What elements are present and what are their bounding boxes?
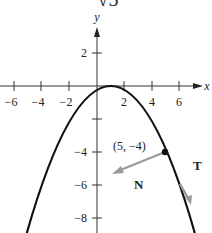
x-axis-label: x [203,79,210,93]
x-tick-label: 2 [121,95,127,109]
x-tick-label: −6 [5,95,18,109]
normal-vector: N [112,152,165,192]
x-tick-label: −2 [60,95,73,109]
header-partial-text: √5 [98,0,119,10]
point-marker [162,149,168,155]
point-label: (5, −4) [113,139,146,153]
y-axis: y 2 −4 −6 −8 [74,10,102,233]
y-tick-label: 2 [81,46,87,60]
y-tick-label: −4 [74,145,87,159]
tangent-vector-label: T [193,158,202,173]
y-axis-arrow-icon [94,27,100,37]
x-axis: x −6 −4 −2 2 4 6 [0,79,210,109]
x-tick-label: −4 [32,95,45,109]
normal-arrow-icon [112,166,124,174]
y-tick-label: −8 [74,211,87,225]
y-tick-label: −6 [74,178,87,192]
y-axis-label: y [93,10,100,24]
parabola-curve [27,86,195,233]
x-tick-label: 6 [176,95,182,109]
x-axis-arrow-icon [193,83,203,89]
x-tick-label: 4 [149,95,155,109]
parabola-figure: √5 y 2 −4 −6 −8 x [0,0,212,233]
normal-vector-label: N [134,177,144,192]
